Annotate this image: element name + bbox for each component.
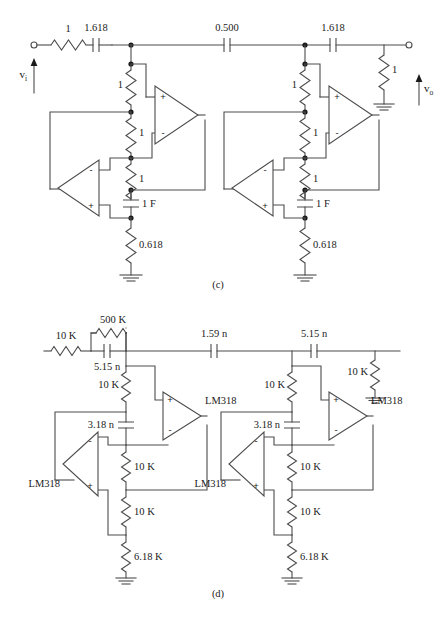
panel-c-section-1: 1 1 1	[50, 45, 205, 281]
panel-d-section-1: 10 K 3.18 n 10 K	[29, 351, 237, 584]
opamp-c1-top: + -	[155, 86, 205, 144]
resistor-c1-mid-label: 1	[139, 127, 144, 138]
opamp-d2-top-plus: +	[333, 394, 339, 405]
resistor-c1-tail-label: 0.618	[139, 239, 163, 250]
opamp-d1-top-plus: +	[167, 394, 173, 405]
capacitor-c3	[330, 38, 336, 52]
opamp-d1-bottom-minus: -	[88, 435, 91, 446]
resistor-d-source	[51, 347, 81, 356]
resistor-d-parallel	[96, 329, 126, 338]
opamp-d2-bottom: - + LM318	[195, 432, 265, 496]
resistor-d2-mid	[288, 452, 297, 482]
input-voltage-annotation-c: vi	[19, 58, 37, 93]
resistor-c1-upper	[126, 70, 136, 105]
resistor-c2-tail-label: 0.618	[313, 239, 337, 250]
capacitor-c1-shunt-label: 1 F	[142, 198, 156, 209]
capacitor-d-parallel	[104, 344, 110, 358]
panel-c-caption: (c)	[212, 279, 224, 291]
output-voltage-label: vo	[424, 82, 434, 97]
resistor-d1-lower-label: 10 K	[134, 506, 155, 517]
resistor-source-c-label: 1	[65, 23, 70, 34]
panel-d-caption: (d)	[212, 588, 225, 600]
wire-d1-minus-bottom	[98, 437, 126, 445]
opamp-c2-bottom-minus: -	[263, 164, 266, 175]
output-terminal-c[interactable]	[406, 42, 412, 48]
opamp-c2-top-plus: +	[334, 91, 340, 102]
resistor-d2-mid-label: 10 K	[300, 461, 321, 472]
circuit-schematic-svg: 1 1.618 0.500 1.618	[0, 0, 440, 617]
ground-c2	[294, 275, 316, 281]
resistor-d2-lower	[288, 497, 297, 527]
output-voltage-annotation-c: vo	[416, 74, 434, 105]
capacitor-d-series-2	[311, 344, 317, 358]
resistor-d-source-label: 10 K	[56, 330, 77, 341]
opamp-d1-top-minus: -	[168, 424, 171, 435]
resistor-load-c	[379, 55, 389, 90]
opamp-c2-top-minus: -	[335, 127, 338, 138]
capacitor-c2-label: 0.500	[215, 22, 239, 33]
opamp-c1-bottom-minus: -	[89, 164, 92, 175]
capacitor-d2-shunt	[284, 422, 300, 428]
resistor-c2-mid-label: 1	[313, 127, 318, 138]
resistor-load-c-label: 1	[392, 64, 397, 75]
capacitor-d1-shunt-label: 3.18 n	[88, 419, 115, 430]
resistor-d1-tail-label: 6.18 K	[134, 551, 163, 562]
capacitor-c1-shunt	[123, 200, 139, 207]
capacitor-c2-shunt	[297, 200, 313, 207]
resistor-d1-tail	[122, 542, 131, 572]
panel-d: 10 K 500 K	[29, 314, 403, 600]
ground-c1	[120, 275, 142, 281]
opamp-d2-top-minus: -	[334, 424, 337, 435]
ground-d1	[116, 578, 136, 584]
panel-c: 1 1.618 0.500 1.618	[19, 22, 433, 291]
capacitor-c1	[93, 38, 99, 52]
ground-load-c	[374, 104, 394, 110]
capacitor-c1-label: 1.618	[84, 22, 108, 33]
resistor-c1-tail	[126, 228, 136, 263]
opamp-d2-bottom-label: LM318	[195, 478, 227, 489]
resistor-d2-upper-label: 10 K	[264, 379, 285, 390]
resistor-d2-tail	[288, 542, 297, 572]
resistor-c2-lower-label: 1	[313, 173, 318, 184]
capacitor-d-parallel-label: 5.15 n	[94, 361, 121, 372]
capacitor-d-series-1-label: 1.59 n	[201, 328, 228, 339]
resistor-d2-lower-label: 10 K	[300, 506, 321, 517]
resistor-d1-upper-label: 10 K	[98, 379, 119, 390]
resistor-d2-tail-label: 6.18 K	[300, 551, 329, 562]
opamp-c2-bottom: - +	[232, 160, 273, 216]
resistor-c1-mid	[126, 118, 136, 153]
resistor-source-c	[51, 40, 86, 50]
wire-d2-plus-branch	[292, 366, 329, 400]
resistor-d-load-label: 10 K	[347, 366, 368, 377]
capacitor-d-series-1	[211, 344, 217, 358]
resistor-c2-tail	[300, 228, 310, 263]
opamp-c1-top-plus: +	[160, 91, 166, 102]
opamp-d2-bottom-plus: +	[253, 480, 259, 491]
figure-root: 1 1.618 0.500 1.618	[0, 0, 440, 617]
opamp-d1-bottom-plus: +	[87, 480, 93, 491]
opamp-d1-bottom: - + LM318	[29, 432, 99, 496]
wire-d2-minus-bottom	[264, 437, 292, 445]
opamp-c1-top-minus: -	[161, 127, 164, 138]
resistor-c1-lower-label: 1	[139, 173, 144, 184]
resistor-c2-upper	[300, 70, 310, 105]
opamp-c2-top: + -	[329, 86, 379, 144]
resistor-d1-upper	[122, 372, 131, 402]
input-terminal-c[interactable]	[31, 42, 37, 48]
resistor-d1-lower	[122, 497, 131, 527]
capacitor-c2	[224, 38, 230, 52]
capacitor-d2-shunt-label: 3.18 n	[254, 419, 281, 430]
capacitor-d1-shunt	[118, 422, 134, 428]
wire-d-par-top-left	[91, 333, 96, 351]
resistor-c2-mid	[300, 118, 310, 153]
resistor-c1-upper-label: 1	[118, 79, 123, 90]
input-voltage-label: vi	[19, 68, 27, 83]
resistor-d-load	[371, 360, 380, 390]
wire-d1-plus-branch	[126, 366, 163, 400]
opamp-c2-bottom-plus: +	[262, 200, 268, 211]
opamp-c1-bottom-plus: +	[88, 200, 94, 211]
opamp-d2-bottom-minus: -	[254, 435, 257, 446]
opamp-d1-top: + - LM318	[163, 392, 237, 440]
opamp-d2-top-label: LM318	[371, 395, 403, 406]
opamp-d1-top-label: LM318	[205, 395, 237, 406]
